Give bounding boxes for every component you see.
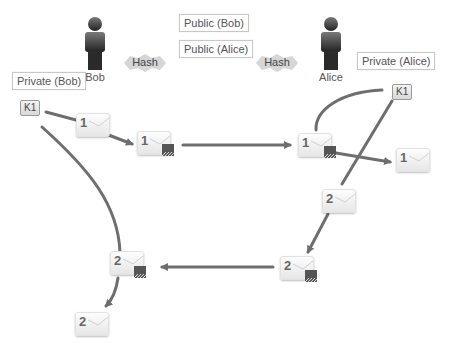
envelope-m1-plain-alice: 1 bbox=[396, 148, 430, 172]
hash-badge-left: Hash bbox=[124, 54, 166, 72]
envelope-number: 1 bbox=[141, 133, 148, 148]
key-badge-bob: K1 bbox=[20, 100, 40, 116]
arrow-decrypt-m2 bbox=[106, 278, 118, 306]
private-key-alice-label: Private (Alice) bbox=[357, 52, 435, 70]
bob-person-icon bbox=[80, 16, 110, 70]
envelope-number: 2 bbox=[114, 253, 121, 268]
hash-badge-right: Hash bbox=[256, 54, 298, 72]
private-key-bob-label: Private (Bob) bbox=[12, 72, 86, 90]
envelope-number: 2 bbox=[284, 258, 291, 273]
public-key-bob-label: Public (Bob) bbox=[179, 14, 249, 32]
envelope-number: 1 bbox=[80, 115, 87, 130]
arrow-alice-k1-to-m2 bbox=[342, 101, 392, 184]
arrow-encrypt-m1 bbox=[106, 134, 132, 144]
envelope-m1-plain-bob: 1 bbox=[76, 113, 110, 137]
envelope-number: 2 bbox=[79, 314, 86, 329]
arrow-alice-k1-to-m1 bbox=[316, 90, 382, 130]
lock-icon bbox=[134, 266, 146, 278]
lock-icon bbox=[162, 144, 174, 156]
alice-person-icon bbox=[316, 16, 346, 70]
lock-icon bbox=[324, 146, 336, 158]
arrow-encrypt-m2 bbox=[308, 214, 328, 252]
envelope-m2-plain-alice: 2 bbox=[322, 189, 356, 213]
alice-name: Alice bbox=[306, 71, 356, 83]
arrow-bob-k1-to-m2 bbox=[42, 127, 120, 252]
public-key-alice-label: Public (Alice) bbox=[179, 40, 253, 58]
lock-icon bbox=[305, 270, 317, 282]
key-badge-alice: K1 bbox=[392, 84, 412, 100]
arrow-decrypt-m1 bbox=[336, 153, 390, 162]
envelope-number: 2 bbox=[326, 191, 333, 206]
hash-label-right: Hash bbox=[256, 56, 298, 68]
arrow-k1-to-m1 bbox=[46, 112, 76, 120]
envelope-number: 1 bbox=[302, 135, 309, 150]
envelope-m2-plain-bob: 2 bbox=[75, 312, 109, 336]
hash-label-left: Hash bbox=[124, 56, 166, 68]
envelope-number: 1 bbox=[400, 150, 407, 165]
